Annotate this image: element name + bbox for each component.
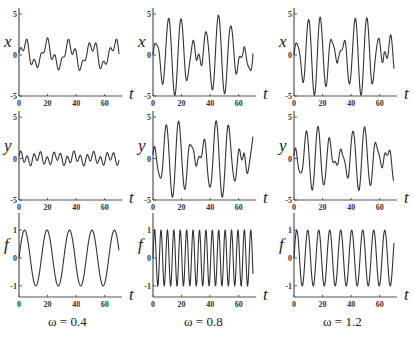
y-tick-label: -1 bbox=[285, 282, 292, 291]
x-tick-label: 60 bbox=[376, 99, 384, 108]
y-axis-label: y bbox=[136, 136, 146, 155]
x-tick-label: 0 bbox=[17, 99, 21, 108]
y-tick-label: -5 bbox=[10, 92, 17, 101]
x-tick-label: 0 bbox=[151, 203, 155, 212]
y-tick-label: -1 bbox=[10, 282, 17, 291]
x-tick-label: 40 bbox=[206, 99, 214, 108]
y-tick-label: -5 bbox=[144, 92, 151, 101]
y-tick-label: 0 bbox=[147, 51, 151, 60]
series-line bbox=[19, 151, 119, 166]
caption-omega-0.8: ω = 0.8 bbox=[184, 314, 223, 330]
y-axis-label: x bbox=[3, 32, 12, 51]
x-tick-label: 20 bbox=[178, 99, 186, 108]
x-tick-label: 40 bbox=[347, 300, 355, 309]
x-tick-label: 20 bbox=[319, 203, 327, 212]
y-tick-label: 0 bbox=[13, 51, 17, 60]
x-tick-label: 40 bbox=[347, 203, 355, 212]
y-tick-label: 5 bbox=[147, 113, 151, 122]
y-axis-label: y bbox=[277, 136, 287, 155]
x-tick-label: 0 bbox=[292, 300, 296, 309]
x-axis-label: t bbox=[404, 285, 410, 304]
series-line bbox=[153, 121, 253, 197]
x-tick-label: 20 bbox=[319, 300, 327, 309]
y-tick-label: 5 bbox=[13, 113, 17, 122]
y-tick-label: -5 bbox=[285, 92, 292, 101]
caption-omega-0.4: ω = 0.4 bbox=[48, 314, 87, 330]
x-tick-label: 40 bbox=[347, 99, 355, 108]
series-line bbox=[294, 230, 394, 286]
x-axis-label: t bbox=[404, 188, 410, 207]
x-tick-label: 40 bbox=[72, 99, 80, 108]
y-tick-label: -5 bbox=[144, 196, 151, 205]
y-axis-label: f bbox=[4, 235, 11, 254]
x-tick-label: 60 bbox=[376, 203, 384, 212]
series-line bbox=[19, 230, 119, 286]
x-tick-label: 60 bbox=[235, 99, 243, 108]
caption-omega-1.2: ω = 1.2 bbox=[323, 314, 362, 330]
y-tick-label: -1 bbox=[144, 282, 151, 291]
x-tick-label: 60 bbox=[101, 99, 109, 108]
x-axis-label: t bbox=[263, 285, 269, 304]
x-tick-label: 60 bbox=[376, 300, 384, 309]
y-tick-label: 1 bbox=[288, 226, 292, 235]
x-tick-label: 60 bbox=[235, 300, 243, 309]
y-axis-label: x bbox=[278, 32, 287, 51]
y-tick-label: 0 bbox=[13, 155, 17, 164]
x-tick-label: 40 bbox=[206, 300, 214, 309]
y-tick-label: 5 bbox=[13, 10, 17, 19]
x-tick-label: 40 bbox=[72, 300, 80, 309]
x-axis-label: t bbox=[129, 188, 135, 207]
x-tick-label: 60 bbox=[235, 203, 243, 212]
y-tick-label: 0 bbox=[288, 155, 292, 164]
series-line bbox=[294, 17, 394, 95]
x-tick-label: 20 bbox=[44, 99, 52, 108]
y-tick-label: 0 bbox=[13, 254, 17, 263]
y-tick-label: 5 bbox=[147, 10, 151, 19]
x-tick-label: 0 bbox=[17, 300, 21, 309]
y-axis-label: x bbox=[137, 32, 146, 51]
x-axis-label: t bbox=[129, 84, 135, 103]
x-tick-label: 0 bbox=[292, 203, 296, 212]
x-axis-label: t bbox=[263, 84, 269, 103]
x-tick-label: 0 bbox=[151, 300, 155, 309]
y-tick-label: -5 bbox=[10, 196, 17, 205]
series-line bbox=[153, 230, 253, 286]
y-tick-label: 0 bbox=[147, 254, 151, 263]
x-tick-label: 60 bbox=[101, 300, 109, 309]
y-tick-label: 0 bbox=[288, 254, 292, 263]
y-tick-label: 5 bbox=[288, 10, 292, 19]
y-axis-label: f bbox=[279, 235, 286, 254]
x-tick-label: 40 bbox=[206, 203, 214, 212]
x-tick-label: 0 bbox=[151, 99, 155, 108]
x-axis-label: t bbox=[129, 285, 135, 304]
x-axis-label: t bbox=[404, 84, 410, 103]
x-tick-label: 40 bbox=[72, 203, 80, 212]
y-axis-label: y bbox=[2, 136, 12, 155]
y-axis-label: f bbox=[138, 235, 145, 254]
x-tick-label: 20 bbox=[44, 300, 52, 309]
y-tick-label: 5 bbox=[288, 113, 292, 122]
x-tick-label: 0 bbox=[292, 99, 296, 108]
x-tick-label: 20 bbox=[44, 203, 52, 212]
x-tick-label: 20 bbox=[178, 203, 186, 212]
y-tick-label: 0 bbox=[288, 51, 292, 60]
figure-canvas: 50-50204060xt50-50204060yt10-10204060ft5… bbox=[0, 0, 414, 342]
series-line bbox=[153, 15, 253, 95]
x-axis-label: t bbox=[263, 188, 269, 207]
x-tick-label: 20 bbox=[178, 300, 186, 309]
y-tick-label: 1 bbox=[13, 226, 17, 235]
y-tick-label: -5 bbox=[285, 196, 292, 205]
x-tick-label: 20 bbox=[319, 99, 327, 108]
y-tick-label: 0 bbox=[147, 155, 151, 164]
series-line bbox=[294, 127, 394, 191]
x-tick-label: 60 bbox=[101, 203, 109, 212]
x-tick-label: 0 bbox=[17, 203, 21, 212]
y-tick-label: 1 bbox=[147, 226, 151, 235]
series-line bbox=[19, 38, 119, 71]
